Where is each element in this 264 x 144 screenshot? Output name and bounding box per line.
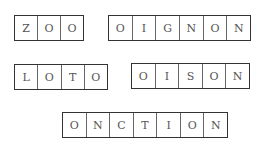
- word-box-zoo: Z O O: [14, 15, 84, 41]
- letter-cell: I: [156, 113, 180, 137]
- word-box-oignon: O I G N O N: [108, 15, 251, 41]
- letter-cell: N: [203, 113, 227, 137]
- letter-cell: N: [225, 64, 249, 88]
- letter-cell: O: [63, 113, 86, 137]
- letter-cell: O: [84, 65, 107, 89]
- letter-cell: O: [180, 113, 204, 137]
- letter-cell: O: [37, 65, 60, 89]
- letter-cell: O: [203, 16, 227, 40]
- letter-cell: I: [132, 16, 156, 40]
- letter-cell: O: [202, 64, 226, 88]
- letter-cell: O: [109, 16, 132, 40]
- letter-cell: O: [132, 64, 155, 88]
- letter-cell: Z: [15, 16, 37, 40]
- word-box-oison: O I S O N: [131, 63, 250, 89]
- letter-cell: N: [226, 16, 250, 40]
- letter-cell: S: [178, 64, 202, 88]
- letter-cell: N: [179, 16, 203, 40]
- letter-cell: L: [15, 65, 37, 89]
- letter-cell: T: [133, 113, 157, 137]
- letter-cell: O: [37, 16, 60, 40]
- letter-cell: O: [60, 16, 83, 40]
- letter-cell: N: [86, 113, 110, 137]
- letter-cell: C: [109, 113, 133, 137]
- letter-cell: I: [155, 64, 179, 88]
- word-box-onction: O N C T I O N: [62, 112, 228, 138]
- letter-cell: G: [155, 16, 179, 40]
- word-box-loto: L O T O: [14, 64, 108, 90]
- letter-cell: T: [61, 65, 84, 89]
